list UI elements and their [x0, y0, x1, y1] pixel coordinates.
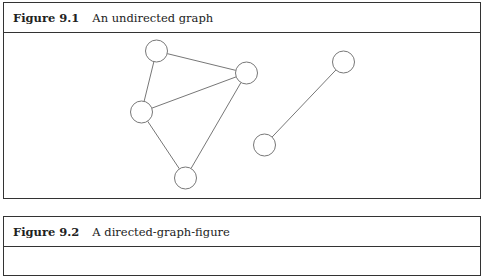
graph-edge: [148, 121, 180, 169]
graph-edge: [272, 70, 336, 137]
graph-node: [236, 62, 258, 84]
figure-9-2: Figure 9.2 A directed-graph-figure: [3, 216, 481, 276]
figure-header: Figure 9.2 A directed-graph-figure: [4, 217, 480, 247]
graph-node: [254, 134, 276, 156]
undirected-graph: [4, 33, 479, 198]
graph-edge: [167, 54, 236, 71]
graph-node: [146, 40, 168, 62]
figure-caption: An undirected graph: [92, 11, 213, 25]
figure-label: Figure 9.2: [13, 225, 79, 239]
figure-9-1: Figure 9.1 An undirected graph: [3, 2, 481, 199]
graph-node: [175, 167, 197, 189]
graph-edge: [191, 83, 241, 169]
graph-node: [333, 51, 355, 73]
graph-canvas: [4, 33, 480, 198]
figure-header: Figure 9.1 An undirected graph: [4, 3, 480, 33]
graph-edge: [144, 62, 154, 102]
graph-node: [131, 101, 153, 123]
figure-caption: A directed-graph-figure: [92, 225, 230, 239]
graph-edge: [152, 77, 236, 108]
figure-label: Figure 9.1: [13, 11, 79, 25]
